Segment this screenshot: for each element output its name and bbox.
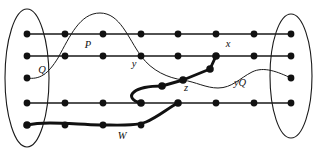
vertex-r2-c7: [251, 53, 258, 60]
vertex-r2-c5: [175, 53, 182, 60]
vertex-r1-c3: [100, 31, 107, 38]
vertex-r1-c8: [288, 31, 295, 38]
vertex-r3-c7: [251, 100, 258, 107]
vertex-r1-c5: [175, 31, 182, 38]
vertex-r1-c4: [138, 31, 145, 38]
path-W-z-to-bend: [183, 69, 210, 80]
vertex-r2-c8: [288, 53, 295, 60]
label-Q: Q: [38, 64, 46, 75]
vertex-w-mid: [158, 82, 166, 90]
vertex-right-c3: [288, 75, 295, 82]
vertex-r2-c6-x: [212, 52, 220, 60]
vertex-w-start: [23, 121, 31, 129]
vertex-r2-c1: [24, 53, 31, 60]
vertex-r1-c6: [213, 31, 220, 38]
vertex-r2-c3: [100, 53, 107, 60]
label-W: W: [118, 130, 128, 141]
vertex-r3-c4: [137, 99, 145, 107]
label-z: z: [183, 82, 188, 93]
label-P: P: [84, 39, 92, 50]
graph-canvas: P Q y x z yQ W: [0, 0, 316, 150]
vertex-r3-c8: [288, 100, 295, 107]
vertex-r1-c1: [24, 31, 31, 38]
vertex-r3-c2: [62, 100, 69, 107]
vertex-r2-c2: [62, 53, 69, 60]
vertex-r2-c4-y: [138, 53, 145, 60]
vertex-bend: [206, 65, 214, 73]
vertex-w-d: [138, 122, 145, 129]
vertex-left-c3: [24, 75, 31, 82]
label-x: x: [225, 38, 231, 49]
label-y: y: [131, 58, 137, 69]
curve-Q: [27, 13, 183, 80]
vertex-r3-c3: [100, 100, 107, 107]
graph-figure: P Q y x z yQ W: [0, 0, 316, 150]
vertex-r3-c1: [24, 100, 31, 107]
vertex-r1-c2: [62, 31, 69, 38]
path-W-hook: [132, 86, 162, 103]
vertex-r3-c6: [213, 100, 220, 107]
vertex-w-b: [62, 122, 69, 129]
vertex-r1-c7: [251, 31, 258, 38]
vertex-w-c: [100, 122, 107, 129]
label-yQ: yQ: [233, 77, 247, 88]
vertex-r3-c5: [174, 99, 182, 107]
